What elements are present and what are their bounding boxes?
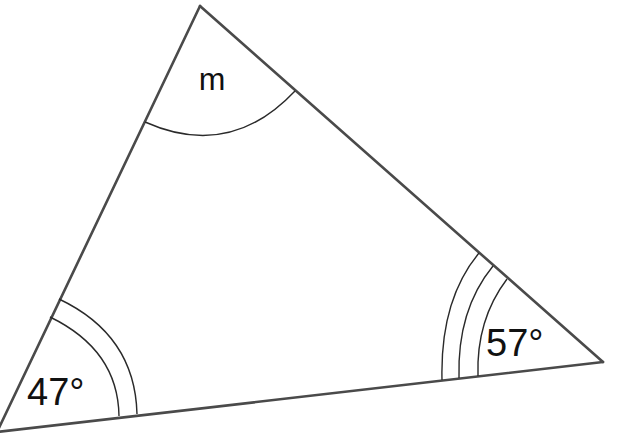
- edge-top-right: [200, 6, 603, 362]
- triangle-diagram: m 47° 57°: [0, 0, 617, 443]
- angle-arc-right-1: [442, 253, 479, 380]
- angle-label-bottom-left: 47°: [27, 371, 84, 413]
- edge-bottom-left-top: [0, 6, 200, 432]
- angle-label-right: 57°: [486, 322, 543, 364]
- angle-arc-top-1: [145, 91, 295, 135]
- triangle-edges: [0, 6, 603, 432]
- angle-label-top: m: [199, 61, 226, 97]
- angle-arcs-top: [145, 91, 295, 135]
- edge-right-bottom-left: [0, 362, 603, 432]
